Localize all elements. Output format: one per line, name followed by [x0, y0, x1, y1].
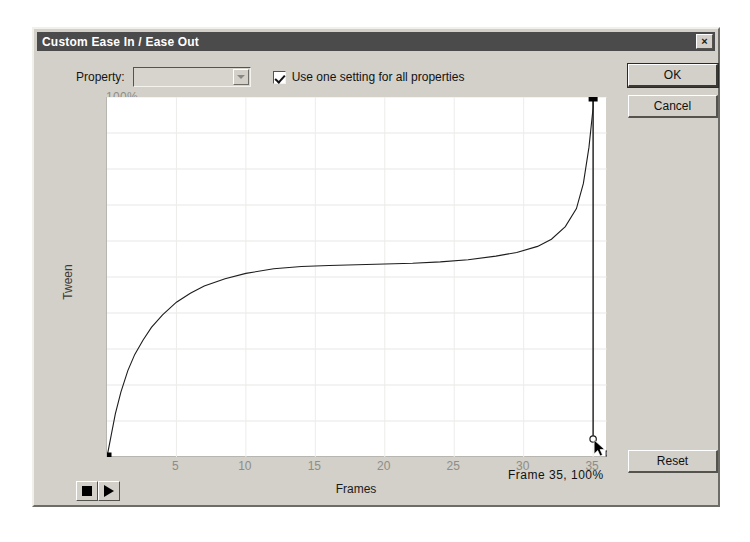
property-row: Property: Use one setting for all proper…	[76, 67, 464, 87]
property-dropdown[interactable]	[133, 67, 251, 87]
use-one-setting-checkbox[interactable]: Use one setting for all properties	[273, 70, 465, 84]
property-dropdown-value	[134, 68, 232, 86]
checkbox-box[interactable]	[273, 71, 286, 84]
end-anchor-point[interactable]	[589, 97, 598, 102]
screen-root: Custom Ease In / Ease Out × Property: Us…	[0, 0, 750, 542]
drag-hint-box	[606, 451, 607, 456]
x-tick-label: 10	[238, 459, 251, 473]
play-button[interactable]	[98, 481, 120, 501]
dialog-titlebar[interactable]: Custom Ease In / Ease Out ×	[37, 32, 715, 51]
mouse-cursor-icon	[594, 440, 605, 456]
x-tick-label: 25	[447, 459, 460, 473]
ok-button[interactable]: OK	[628, 64, 718, 87]
y-axis-title: Tween	[61, 264, 75, 299]
stop-button[interactable]	[76, 481, 98, 501]
ease-curve-svg[interactable]	[107, 97, 607, 457]
ease-graph-panel: Tween 10%20%30%40%50%60%70%80%90%100% 51…	[76, 97, 616, 496]
stop-icon	[82, 486, 92, 496]
reset-button[interactable]: Reset	[628, 450, 718, 473]
dialog-title: Custom Ease In / Ease Out	[42, 35, 199, 49]
property-label: Property:	[76, 70, 125, 84]
custom-ease-dialog: Custom Ease In / Ease Out × Property: Us…	[32, 27, 720, 507]
chevron-down-icon[interactable]	[233, 69, 249, 85]
use-one-setting-label: Use one setting for all properties	[292, 70, 465, 84]
cancel-button[interactable]: Cancel	[628, 95, 718, 118]
start-anchor-point[interactable]	[107, 453, 112, 458]
x-axis-title: Frames	[336, 482, 377, 496]
close-icon: ×	[701, 36, 707, 47]
frame-readout: Frame 35, 100%	[508, 468, 604, 482]
play-icon	[104, 485, 114, 497]
playback-controls	[76, 481, 120, 501]
x-tick-label: 5	[172, 459, 179, 473]
x-tick-label: 20	[377, 459, 390, 473]
close-button[interactable]: ×	[696, 34, 713, 49]
ease-curve-plot[interactable]	[106, 97, 606, 457]
x-tick-label: 15	[308, 459, 321, 473]
plot-gridlines	[107, 97, 607, 457]
